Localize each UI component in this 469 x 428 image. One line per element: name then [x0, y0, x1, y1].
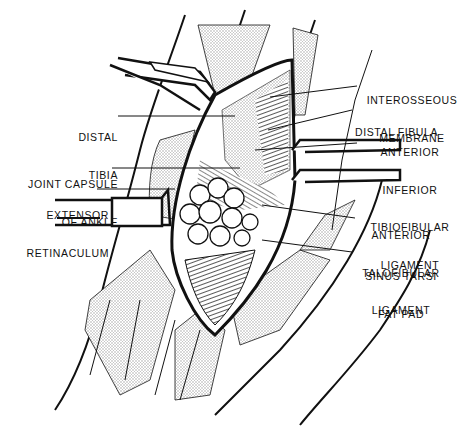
label-line: ANTERIOR [355, 146, 465, 159]
label-line: DISTAL [66, 131, 118, 144]
label-line: SINUS TARSI [360, 270, 442, 283]
label-extensor-retinaculum: EXTENSOR RETINACULUM [14, 184, 109, 272]
label-line: RETINACULUM [14, 247, 109, 260]
label-sinus-tarsi: SINUS TARSI FAT PAD [360, 245, 442, 333]
label-line: INFERIOR [355, 184, 465, 197]
label-line: FAT PAD [360, 308, 442, 321]
label-line: ANTERIOR [358, 229, 444, 242]
label-line: EXTENSOR [14, 209, 109, 222]
